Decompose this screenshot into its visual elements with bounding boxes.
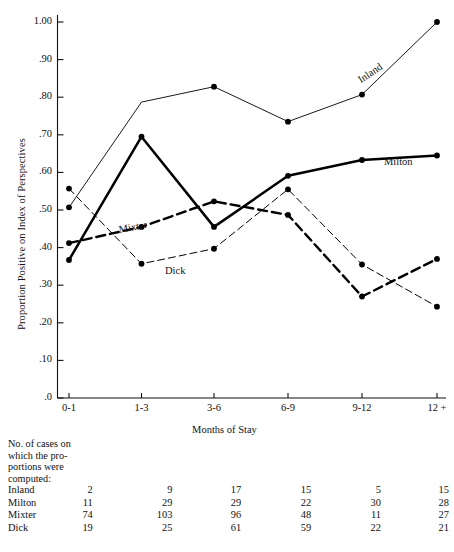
counts-row-label: Mixter [8, 509, 64, 522]
data-point [211, 246, 217, 252]
y-tick-label: 1.00 [18, 15, 52, 26]
x-axis-ticks [69, 393, 437, 398]
y-tick-label: .50 [18, 203, 52, 214]
x-axis-title: Months of Stay [0, 424, 449, 435]
table-row: Milton112929223028 [8, 497, 449, 510]
counts-cell: 74 [64, 509, 93, 522]
counts-cell: 59 [241, 522, 311, 535]
x-tick-label: 1-3 [112, 402, 172, 413]
counts-table: Inland291715515Milton112929223028Mixter7… [8, 484, 449, 534]
y-tick-label: .10 [18, 353, 52, 364]
series-mixter [66, 198, 440, 299]
counts-cell: 30 [311, 497, 381, 510]
table-row: Mixter7410396481127 [8, 509, 449, 522]
counts-cell: 2 [64, 484, 93, 497]
counts-cell: 21 [381, 522, 449, 535]
x-tick-label: 9-12 [332, 402, 392, 413]
counts-cell: 103 [93, 509, 173, 522]
counts-cell: 15 [241, 484, 311, 497]
table-row: Dick192561592221 [8, 522, 449, 535]
data-point [359, 294, 365, 300]
counts-cell: 11 [64, 497, 93, 510]
data-point [359, 92, 365, 98]
data-point [434, 19, 440, 25]
y-tick-label: .20 [18, 316, 52, 327]
data-point [66, 240, 72, 246]
counts-cell: 25 [93, 522, 173, 535]
data-point [66, 257, 72, 263]
counts-row-label: Inland [8, 484, 64, 497]
data-point [285, 119, 291, 125]
counts-cell: 5 [311, 484, 381, 497]
data-point [285, 186, 291, 192]
series-milton [66, 134, 440, 263]
counts-cell: 29 [93, 497, 173, 510]
counts-cell: 11 [311, 509, 381, 522]
y-tick-label: .70 [18, 128, 52, 139]
series-dick [66, 186, 440, 310]
y-tick-label: .80 [18, 90, 52, 101]
cases-note: No. of cases on which the pro- portions … [8, 438, 71, 484]
data-point [285, 212, 291, 218]
data-point [66, 186, 72, 192]
data-point [434, 256, 440, 262]
x-tick-label: 12 + [407, 402, 454, 413]
y-tick-label: .90 [18, 53, 52, 64]
counts-row-label: Milton [8, 497, 64, 510]
counts-cell: 27 [381, 509, 449, 522]
x-tick-label: 3-6 [184, 402, 244, 413]
counts-cell: 96 [172, 509, 241, 522]
data-point [211, 84, 217, 90]
data-point [211, 198, 217, 204]
x-tick-label: 6-9 [258, 402, 318, 413]
table-row: Inland291715515 [8, 484, 449, 497]
y-tick-label: .60 [18, 165, 52, 176]
y-tick-label: .40 [18, 241, 52, 252]
data-point [211, 224, 217, 230]
data-point [359, 157, 365, 163]
data-point [434, 304, 440, 310]
axis-lines [58, 15, 447, 398]
counts-row-label: Dick [8, 522, 64, 535]
counts-cell: 61 [172, 522, 241, 535]
series-label-milton: Milton [384, 156, 413, 167]
data-point [434, 153, 440, 159]
series-inland [66, 19, 440, 210]
counts-cell: 28 [381, 497, 449, 510]
y-tick-label: .0 [18, 391, 52, 402]
counts-cell: 48 [241, 509, 311, 522]
data-point [285, 173, 291, 179]
y-axis-ticks [58, 22, 64, 398]
counts-cell: 22 [311, 522, 381, 535]
counts-cell: 17 [172, 484, 241, 497]
data-point [66, 204, 72, 210]
counts-cell: 22 [241, 497, 311, 510]
x-tick-label: 0-1 [39, 402, 99, 413]
counts-cell: 9 [93, 484, 173, 497]
series-label-dick: Dick [165, 265, 185, 276]
counts-cell: 29 [172, 497, 241, 510]
data-point [139, 134, 145, 140]
y-tick-label: .30 [18, 278, 52, 289]
data-point [139, 261, 145, 267]
counts-cell: 15 [381, 484, 449, 497]
counts-cell: 19 [64, 522, 93, 535]
data-point [359, 262, 365, 268]
